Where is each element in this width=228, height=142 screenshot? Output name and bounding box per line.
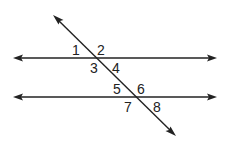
angle-label-5: 5: [113, 81, 121, 97]
angle-label-6: 6: [137, 81, 145, 97]
angle-label-4: 4: [112, 60, 120, 76]
angle-label-8: 8: [153, 99, 161, 115]
angle-label-1: 1: [72, 42, 80, 58]
angle-label-7: 7: [124, 99, 132, 115]
angle-label-2: 2: [97, 42, 105, 58]
parallel-lines-diagram: 1 2 3 4 5 6 7 8: [0, 0, 228, 142]
angle-label-3: 3: [90, 60, 98, 76]
